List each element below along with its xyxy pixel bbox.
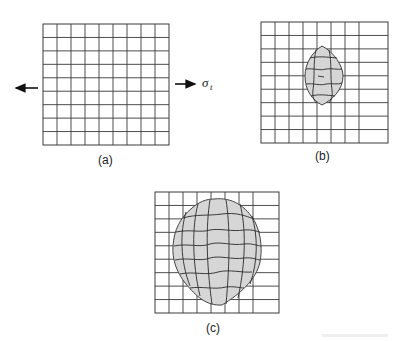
grid-a bbox=[43, 24, 169, 145]
panel-b: (b) bbox=[261, 22, 388, 163]
stress-symbol: σ bbox=[202, 75, 209, 90]
grid-frame bbox=[43, 24, 169, 145]
panel-label-a: (a) bbox=[98, 153, 113, 167]
panel-c: (c) bbox=[155, 192, 279, 335]
stress-subscript: t bbox=[210, 82, 213, 92]
panel-a: σ t (a) bbox=[16, 24, 213, 167]
figure-canvas: σ t (a) (b) bbox=[0, 0, 396, 341]
panel-label-b: (b) bbox=[315, 149, 330, 163]
scan-artifact bbox=[322, 334, 388, 337]
panel-label-c: (c) bbox=[206, 321, 220, 335]
damage-zone-b bbox=[305, 46, 343, 105]
